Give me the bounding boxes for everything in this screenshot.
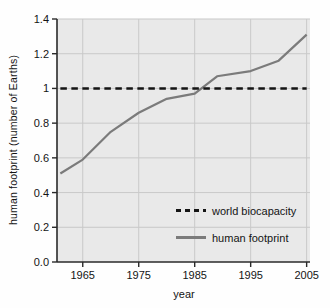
legend-label-world-biocapacity: world biocapacity [212, 205, 296, 217]
x-axis-title: year [173, 288, 194, 300]
chart-figure: 0.00.20.40.60.811.21.4196519751985199520… [0, 0, 330, 308]
x-tick-label: 1975 [126, 269, 150, 281]
solid-line-swatch [176, 236, 206, 239]
legend-item-world-biocapacity: world biocapacity [176, 202, 296, 219]
x-tick-label: 2005 [294, 269, 318, 281]
y-tick-label: 0.4 [34, 187, 49, 199]
dashed-line-swatch [176, 209, 206, 212]
legend-item-human-footprint: human footprint [176, 229, 296, 246]
y-axis-title: human footprint (number of Earths) [7, 55, 19, 225]
y-tick-label: 1.4 [34, 13, 49, 25]
y-tick-label: 1 [43, 82, 49, 94]
y-tick-label: 0.2 [34, 221, 49, 233]
x-tick-label: 1965 [71, 269, 95, 281]
y-tick-label: 1.2 [34, 48, 49, 60]
plot-area: 0.00.20.40.60.811.21.4196519751985199520… [0, 0, 330, 308]
y-tick-label: 0.0 [34, 256, 49, 268]
legend-label-human-footprint: human footprint [212, 232, 288, 244]
y-tick-label: 0.8 [34, 117, 49, 129]
y-tick-label: 0.6 [34, 152, 49, 164]
legend: world biocapacity human footprint [176, 202, 296, 246]
x-tick-label: 1985 [182, 269, 206, 281]
x-tick-label: 1995 [238, 269, 262, 281]
